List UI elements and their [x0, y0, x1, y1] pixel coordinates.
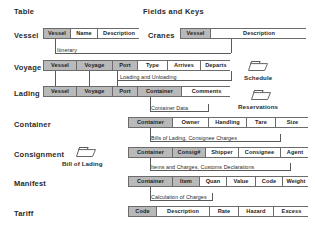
field-manifest-container[interactable]: Container [129, 177, 173, 186]
cranes-drop-v [231, 39, 232, 53]
field-voyage-vessel[interactable]: Vessel [44, 61, 77, 70]
record-manifest: ContainerItemQuanValueCodeWeight [128, 176, 308, 187]
record-container: ContainerOwnerHandlingTareSize [128, 117, 308, 128]
bills-of-lading-caption: Bills of Lading, Consignee Charges [151, 135, 237, 141]
field-manifest-value[interactable]: Value [227, 177, 256, 186]
field-container-owner[interactable]: Owner [173, 118, 209, 127]
schedule-folder-label: Schedule [244, 74, 272, 81]
table-column-heading: Table [14, 7, 34, 16]
record-cranes: VesselDescription [180, 28, 306, 39]
container-data-drop-v [208, 104, 209, 112]
fields-and-keys-heading: Fields and Keys [143, 7, 204, 16]
bills-h [150, 141, 280, 142]
record-lading: VesselVoyagePortContainerComments [43, 86, 230, 97]
field-manifest-item[interactable]: Item [173, 177, 200, 186]
field-container-handling[interactable]: Handling [209, 118, 247, 127]
folder-icon [250, 88, 272, 101]
entity-label-manifest: Manifest [14, 179, 46, 188]
loading-drop-v [231, 71, 232, 81]
field-tariff-excess[interactable]: Excess [274, 207, 309, 216]
bill-of-lading-folder-label: Bill of Lading [62, 160, 103, 167]
field-voyage-voyage[interactable]: Voyage [77, 61, 113, 70]
field-consignment-agent[interactable]: Agent [281, 148, 309, 157]
field-consignment-consignee[interactable]: Consignee [239, 148, 281, 157]
entity-label-vessel: Vessel [14, 31, 39, 40]
record-vessel: VesselNameDescription [43, 28, 139, 39]
calculation-of-charges-caption: Calculation of Charges [151, 194, 207, 200]
field-tariff-hazard[interactable]: Hazard [239, 207, 274, 216]
calculation-h [150, 200, 212, 201]
field-container-container[interactable]: Container [129, 118, 173, 127]
field-consignment-shipper[interactable]: Shipper [206, 148, 239, 157]
field-voyage-type[interactable]: Type [138, 61, 168, 70]
voyage-v3 [117, 71, 118, 86]
entity-label-voyage: Voyage [14, 63, 41, 72]
folder-icon [247, 59, 269, 72]
field-tariff-code[interactable]: Code [129, 207, 157, 216]
loading-unloading-caption: Loading and Unloading [120, 74, 177, 80]
field-lading-container[interactable]: Container [138, 87, 182, 96]
entity-label-container: Container [14, 120, 51, 129]
record-tariff: CodeDescriptionRateHazardExcess [128, 206, 308, 217]
field-lading-comments[interactable]: Comments [182, 87, 231, 96]
bills-drop-v [280, 134, 281, 142]
record-voyage: VesselVoyagePortTypeArrivesDeparts [43, 60, 230, 71]
field-container-tare[interactable]: Tare [247, 118, 276, 127]
entity-label-consignment: Consignment [14, 150, 64, 159]
field-manifest-quan[interactable]: Quan [200, 177, 227, 186]
field-voyage-departs[interactable]: Departs [201, 61, 231, 70]
itinerary-to-voyage-h [55, 53, 231, 54]
calculation-drop-v [212, 193, 213, 201]
data-model-diagram: TableFields and KeysItineraryLoading and… [0, 0, 315, 231]
field-manifest-code[interactable]: Code [256, 177, 283, 186]
itinerary-caption: Itinerary [57, 47, 77, 53]
entity-label-lading: Lading [14, 89, 40, 98]
field-consignment-consig[interactable]: Consig# [173, 148, 206, 157]
field-manifest-weight[interactable]: Weight [283, 177, 309, 186]
field-lading-vessel[interactable]: Vessel [44, 87, 77, 96]
field-voyage-port[interactable]: Port [113, 61, 138, 70]
record-consignment: ContainerConsig#ShipperConsigneeAgent [128, 147, 308, 158]
voyage-v2 [89, 71, 90, 86]
reservations-folder-label: Reservations [238, 103, 278, 110]
vessel-to-itinerary-v [55, 39, 56, 53]
entity-label-cranes: Cranes [148, 31, 175, 40]
container-data-caption: Container Data [151, 105, 188, 111]
field-lading-voyage[interactable]: Voyage [77, 87, 113, 96]
folder-icon [75, 145, 97, 158]
field-tariff-rate[interactable]: Rate [210, 207, 239, 216]
loading-line-h [117, 80, 231, 81]
items-h [150, 170, 290, 171]
field-cranes-description[interactable]: Description [211, 29, 307, 38]
entity-label-tariff: Tariff [14, 209, 33, 218]
field-container-size[interactable]: Size [276, 118, 309, 127]
field-vessel-description[interactable]: Description [98, 29, 140, 38]
field-vessel-name[interactable]: Name [71, 29, 98, 38]
container-data-h [150, 111, 208, 112]
items-charges-caption: Items and Charges, Customs Declarations [151, 164, 254, 170]
field-cranes-vessel[interactable]: Vessel [181, 29, 211, 38]
items-drop-v [290, 163, 291, 171]
field-consignment-container[interactable]: Container [129, 148, 173, 157]
field-voyage-arrives[interactable]: Arrives [168, 61, 201, 70]
voyage-v1 [55, 71, 56, 86]
field-tariff-description[interactable]: Description [157, 207, 210, 216]
field-vessel-vessel[interactable]: Vessel [44, 29, 71, 38]
field-lading-port[interactable]: Port [113, 87, 138, 96]
